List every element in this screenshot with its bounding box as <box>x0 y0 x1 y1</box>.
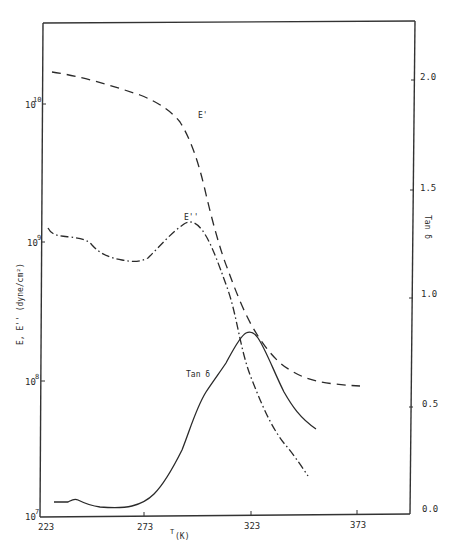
label-e-prime: E' <box>198 111 208 120</box>
label-e-double-prime: E'' <box>184 213 198 222</box>
x-tick-323: 323 <box>244 521 260 531</box>
y-right-tick-0.5: 0.5 <box>422 399 438 409</box>
top-border <box>43 21 415 23</box>
series-e-double-prime <box>48 222 308 476</box>
x-tick-273: 273 <box>137 522 153 532</box>
y-left-tick-labels: 10 10 10 9 10 8 10 7 <box>25 96 41 522</box>
label-tan-delta: Tan δ <box>186 370 210 379</box>
plot-frame <box>40 21 415 517</box>
bottom-axis <box>40 514 410 517</box>
y-left-axis-title: E, E'' (dyne/cm²) <box>16 263 25 345</box>
y-left-tick-1e7-exp: 7 <box>35 508 39 516</box>
y-right-axis-title: Tan δ <box>423 215 432 239</box>
y-left-tick-1e9-exp: 9 <box>37 234 41 242</box>
series-tan-delta <box>54 332 316 508</box>
x-axis-title-unit: (K) <box>175 532 189 541</box>
y-right-tick-1.5: 1.5 <box>420 183 436 193</box>
y-right-tick-labels: 2.0 1.5 1.0 0.5 0.0 <box>420 72 438 514</box>
y-right-tick-2.0: 2.0 <box>420 72 436 82</box>
right-axis <box>410 21 415 514</box>
y-left-tick-1e8-exp: 8 <box>35 373 39 381</box>
y-right-tick-1.0: 1.0 <box>421 289 437 299</box>
y-right-tick-0.0: 0.0 <box>422 504 438 514</box>
y-left-tick-1e10-exp: 10 <box>33 96 41 104</box>
chart-canvas: 223 273 323 373 T (K) 10 10 10 9 10 8 10… <box>0 0 451 554</box>
x-tick-373: 373 <box>350 520 366 530</box>
x-tick-223: 223 <box>38 522 54 532</box>
curves <box>48 72 360 508</box>
x-axis-title: T (K) <box>170 528 189 541</box>
x-tick-labels: 223 273 323 373 <box>38 520 366 532</box>
